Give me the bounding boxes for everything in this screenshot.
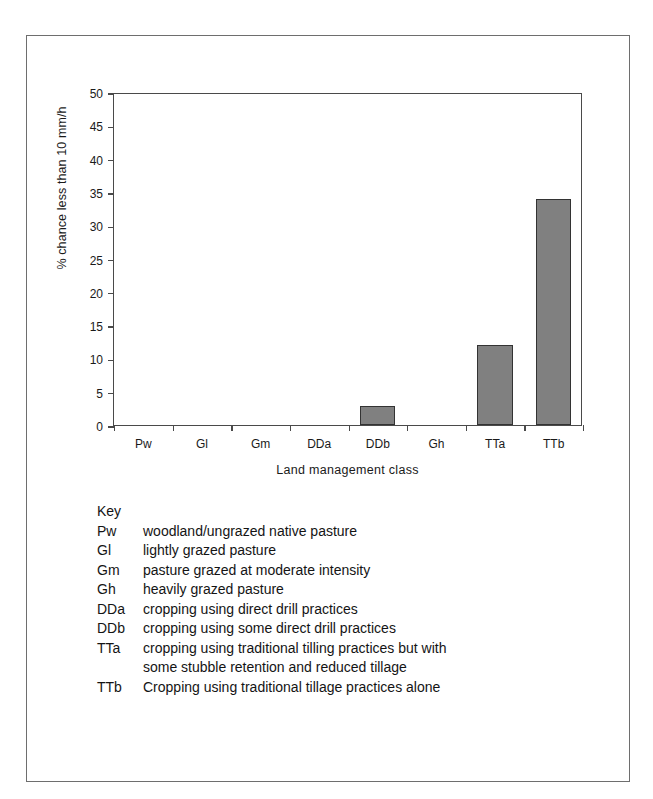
y-axis-tick: 25 [90,255,114,267]
plot-area: 05101520253035404550PwGlGmDDaDDbGhTTaTTb [113,93,582,426]
x-axis-tick-label-DDa: DDa [307,437,331,451]
key-entry-code: Gm [97,561,143,581]
key-entry-TTb: TTbCropping using traditional tillage pr… [97,678,597,698]
y-axis-tick-mark [108,160,114,161]
figure-frame: % chance less than 10 mm/h 0510152025303… [26,35,630,782]
x-axis-tick-label-DDb: DDb [366,437,390,451]
x-axis-tick-mark [583,425,584,431]
y-axis-tick-label: 15 [90,321,108,333]
x-axis-tick-label-Gm: Gm [251,437,270,451]
y-axis-tick: 30 [90,221,114,233]
key-entry-description: heavily grazed pasture [143,580,597,600]
key-entry-DDb: DDbcropping using some direct drill prac… [97,619,597,639]
y-axis-tick-mark [108,293,114,294]
y-axis-tick-mark [108,393,114,394]
y-axis-tick: 45 [90,121,114,133]
key-entry-code: Pw [97,522,143,542]
x-axis-tick-label-Gh: Gh [428,437,444,451]
key-title: Key [97,502,597,522]
y-axis-tick-label: 45 [90,121,108,133]
key-entry-code: DDa [97,600,143,620]
key-entry-code: TTa [97,639,143,659]
y-axis-tick-mark [108,193,114,194]
key-entry-code: Gh [97,580,143,600]
key-entry-DDa: DDacropping using direct drill practices [97,600,597,620]
x-axis-tick-mark [173,425,174,431]
bar-TTa [477,345,512,425]
key-entry-description: cropping using direct drill practices [143,600,597,620]
x-axis-tick-label-Gl: Gl [196,437,208,451]
y-axis-tick-mark [108,127,114,128]
y-axis-tick: 40 [90,155,114,167]
x-axis-tick-mark [231,425,232,431]
y-axis-tick-mark [108,260,114,261]
y-axis-tick-mark [108,93,114,94]
y-axis-tick-mark [108,360,114,361]
key-rows: Pwwoodland/ungrazed native pastureGlligh… [97,522,597,698]
key-entry-description: pasture grazed at moderate intensity [143,561,597,581]
y-axis-tick: 10 [90,354,114,366]
y-axis-tick-label: 30 [90,221,108,233]
y-axis-tick-mark [108,326,114,327]
x-axis-tick-mark [290,425,291,431]
y-axis-tick-label: 50 [90,88,108,100]
key-entry-Gm: Gmpasture grazed at moderate intensity [97,561,597,581]
x-axis-tick-mark [524,425,525,431]
key-entry-description-continued: some stubble retention and reduced tilla… [143,658,597,678]
key-entry-description: cropping using traditional tilling pract… [143,639,597,678]
y-axis-tick: 5 [96,388,114,400]
key-entry-code: TTb [97,678,143,698]
key-entry-TTa: TTacropping using traditional tilling pr… [97,639,597,678]
key-entry-Gl: Gllightly grazed pasture [97,541,597,561]
x-axis-tick-mark [349,425,350,431]
x-axis-tick-mark [114,425,115,431]
key-entry-code: DDb [97,619,143,639]
y-axis-tick-label: 35 [90,188,108,200]
key-entry-description: cropping using some direct drill practic… [143,619,597,639]
y-axis-tick-label: 5 [96,388,108,400]
x-axis-title: Land management class [113,463,582,477]
x-axis-tick-label-Pw: Pw [135,437,152,451]
bar-DDb [360,406,395,425]
key-entry-Pw: Pwwoodland/ungrazed native pasture [97,522,597,542]
x-axis-tick-label-TTa: TTa [485,437,505,451]
x-axis-tick-label-TTb: TTb [543,437,564,451]
y-axis-tick-label: 40 [90,155,108,167]
y-axis-tick: 0 [96,421,114,433]
y-axis-tick-label: 0 [96,421,108,433]
y-axis-tick: 50 [90,88,114,100]
key-entry-description: Cropping using traditional tillage pract… [143,678,597,698]
y-axis-tick-mark [108,227,114,228]
bar-chart: % chance less than 10 mm/h 0510152025303… [27,36,631,466]
y-axis-tick-label: 10 [90,354,108,366]
y-axis-title: % chance less than 10 mm/h [55,48,69,328]
key-entry-Gh: Ghheavily grazed pasture [97,580,597,600]
x-axis-tick-mark [466,425,467,431]
y-axis-tick-label: 25 [90,255,108,267]
bar-TTb [536,199,571,425]
y-axis-tick: 15 [90,321,114,333]
key-entry-description: lightly grazed pasture [143,541,597,561]
y-axis-tick-label: 20 [90,288,108,300]
key-legend: Key Pwwoodland/ungrazed native pastureGl… [97,502,597,697]
key-entry-code: Gl [97,541,143,561]
key-entry-description: woodland/ungrazed native pasture [143,522,597,542]
y-axis-tick: 20 [90,288,114,300]
y-axis-tick: 35 [90,188,114,200]
x-axis-tick-mark [407,425,408,431]
